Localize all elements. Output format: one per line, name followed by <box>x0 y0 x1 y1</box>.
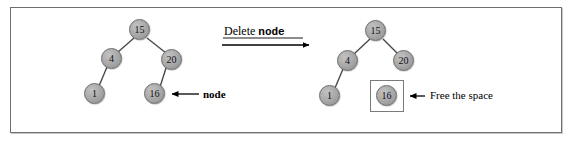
transition-caption: Delete node <box>224 25 285 38</box>
transition-caption-target: node <box>258 26 284 38</box>
tree-node-after-4: 4 <box>337 50 358 71</box>
node-label: 4 <box>345 56 350 66</box>
node-label: 16 <box>382 91 392 101</box>
tree-node-after-15: 15 <box>365 20 386 41</box>
edge-15-to-20 <box>147 38 166 53</box>
tree-node-before-15: 15 <box>129 19 150 40</box>
figure-root: 15 4 20 1 16 node Delete node 15 4 20 1 … <box>0 0 582 142</box>
edge-a15-to-a4 <box>354 39 370 54</box>
tree-node-after-20: 20 <box>393 50 414 71</box>
node-label: 4 <box>109 54 114 64</box>
tree-node-after-16-detached: 16 <box>376 85 397 106</box>
node-label: 1 <box>92 89 97 99</box>
tree-node-before-1: 1 <box>84 83 105 104</box>
node-label: 20 <box>167 55 177 65</box>
transition-caption-prefix: Delete <box>224 24 255 38</box>
edges-and-arrows-layer <box>0 0 582 142</box>
node-label: 15 <box>135 25 145 35</box>
edge-a4-to-a1 <box>335 69 343 88</box>
tree-node-before-16: 16 <box>144 83 165 104</box>
edge-4-to-1 <box>99 67 107 86</box>
edge-15-to-4 <box>118 38 134 52</box>
edge-20-to-16 <box>160 68 166 87</box>
node-label: 1 <box>327 91 332 101</box>
node-label: 16 <box>150 89 160 99</box>
tree-node-before-20: 20 <box>161 49 182 70</box>
tree-node-before-4: 4 <box>101 48 122 69</box>
node-label: 20 <box>399 56 409 66</box>
before-node-annotation-label: node <box>203 89 226 100</box>
node-label: 15 <box>371 26 381 36</box>
free-space-annotation-label: Free the space <box>430 90 493 101</box>
tree-node-after-1: 1 <box>319 85 340 106</box>
